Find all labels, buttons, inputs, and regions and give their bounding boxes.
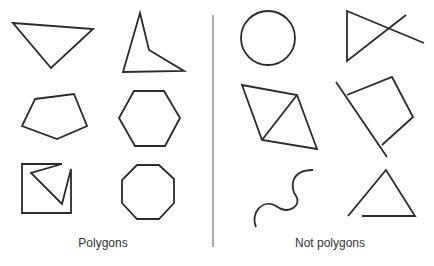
triangle — [13, 23, 93, 68]
concave-polygon-in-square — [22, 164, 71, 213]
crossed-lines-shape — [347, 11, 424, 61]
pentagon — [22, 94, 87, 139]
shape-with-extended-side — [336, 77, 413, 157]
hexagon — [119, 91, 180, 146]
polygons-diagram — [0, 0, 434, 266]
quadrilateral-with-diagonal — [242, 85, 317, 149]
concave-quadrilateral — [123, 13, 184, 72]
polygons-group — [13, 13, 184, 219]
open-triangle — [348, 170, 415, 216]
octagon — [122, 165, 174, 219]
not-polygons-group — [241, 11, 424, 227]
polygons-label: Polygons — [23, 236, 183, 250]
circle — [241, 11, 295, 65]
not-polygons-label: Not polygons — [250, 236, 410, 250]
wavy-curve — [254, 170, 313, 227]
